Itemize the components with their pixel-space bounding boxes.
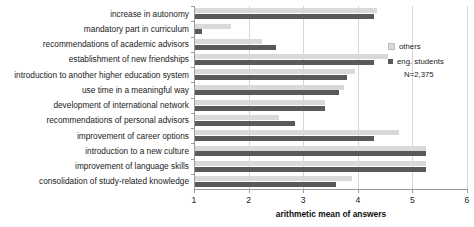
bar-group	[194, 21, 467, 36]
x-axis-tick-label: 3	[293, 195, 313, 205]
bar-eng-students	[194, 60, 374, 65]
bar-eng-students	[194, 90, 339, 95]
x-axis-tick-label: 6	[457, 195, 474, 205]
bar-others	[194, 39, 262, 44]
y-axis-tick	[191, 113, 195, 114]
y-axis-label: recommendations of academic advisors	[3, 39, 189, 49]
y-axis-tick	[191, 6, 195, 7]
y-axis-label: recommendations of personal advisors	[3, 115, 189, 125]
y-axis-label: establishment of new friendships	[3, 54, 189, 64]
y-axis-label: mandatory part in curriculum	[3, 24, 189, 34]
plot-area	[194, 6, 467, 189]
bar-others	[194, 8, 377, 13]
y-axis-tick	[191, 174, 195, 175]
bar-eng-students	[194, 121, 295, 126]
y-axis-tick	[191, 128, 195, 129]
y-axis-label: improvement of career options	[3, 131, 189, 141]
legend-swatch-icon	[388, 59, 393, 64]
x-axis-tick	[249, 189, 250, 193]
grid-line	[467, 6, 468, 189]
bar-eng-students	[194, 29, 202, 34]
y-axis-tick	[191, 67, 195, 68]
y-axis-label: introduction to another higher education…	[3, 70, 189, 80]
y-axis-tick	[191, 21, 195, 22]
x-axis-tick	[412, 189, 413, 193]
y-axis-label: use time in a meaningful way	[3, 85, 189, 95]
y-axis-tick	[191, 143, 195, 144]
bar-others	[194, 161, 426, 166]
legend-item-others: others	[388, 42, 444, 51]
bar-others	[194, 69, 355, 74]
bar-group	[194, 98, 467, 113]
bar-group	[194, 113, 467, 128]
bar-group	[194, 174, 467, 189]
sample-size-note: N=2,375	[404, 70, 434, 79]
bar-others	[194, 130, 399, 135]
chart-legend: others eng. students	[388, 42, 444, 72]
bar-eng-students	[194, 167, 426, 172]
y-axis-tick	[191, 37, 195, 38]
y-axis-tick	[191, 52, 195, 53]
y-axis-label: increase in autonomy	[3, 9, 189, 19]
y-axis-tick	[191, 98, 195, 99]
x-axis-tick	[194, 189, 195, 193]
bar-group	[194, 143, 467, 158]
bar-group	[194, 6, 467, 21]
x-axis-tick	[358, 189, 359, 193]
y-axis-label: introduction to a new culture	[3, 146, 189, 156]
legend-label: others	[399, 42, 421, 51]
y-axis-tick	[191, 82, 195, 83]
bar-others	[194, 85, 344, 90]
bar-others	[194, 115, 279, 120]
y-axis-label: consolidation of study-related knowledge	[3, 176, 189, 186]
x-axis-line	[194, 189, 468, 190]
y-axis-label: improvement of language skills	[3, 161, 189, 171]
bar-eng-students	[194, 151, 426, 156]
bar-eng-students	[194, 14, 374, 19]
bar-group	[194, 159, 467, 174]
x-axis-tick	[467, 189, 468, 193]
bar-eng-students	[194, 75, 347, 80]
x-axis-tick-label: 4	[348, 195, 368, 205]
y-axis-labels: increase in autonomymandatory part in cu…	[0, 6, 189, 189]
bar-group	[194, 82, 467, 97]
bar-others	[194, 24, 231, 29]
bar-eng-students	[194, 106, 325, 111]
legend-swatch-icon	[388, 43, 395, 50]
x-axis-tick	[303, 189, 304, 193]
y-axis-tick	[191, 159, 195, 160]
x-axis-tick-label: 1	[184, 195, 204, 205]
bar-others	[194, 100, 325, 105]
x-axis-title: arithmetic mean of answers	[194, 209, 468, 219]
bar-eng-students	[194, 136, 374, 141]
x-axis-tick-label: 2	[239, 195, 259, 205]
bar-group	[194, 128, 467, 143]
legend-item-eng-students: eng. students	[388, 57, 444, 66]
bar-others	[194, 146, 426, 151]
y-axis-label: development of international network	[3, 100, 189, 110]
legend-label: eng. students	[397, 57, 444, 66]
x-axis-tick-label: 5	[402, 195, 422, 205]
bar-eng-students	[194, 182, 336, 187]
bar-others	[194, 176, 352, 181]
bar-others	[194, 54, 388, 59]
bar-eng-students	[194, 45, 276, 50]
